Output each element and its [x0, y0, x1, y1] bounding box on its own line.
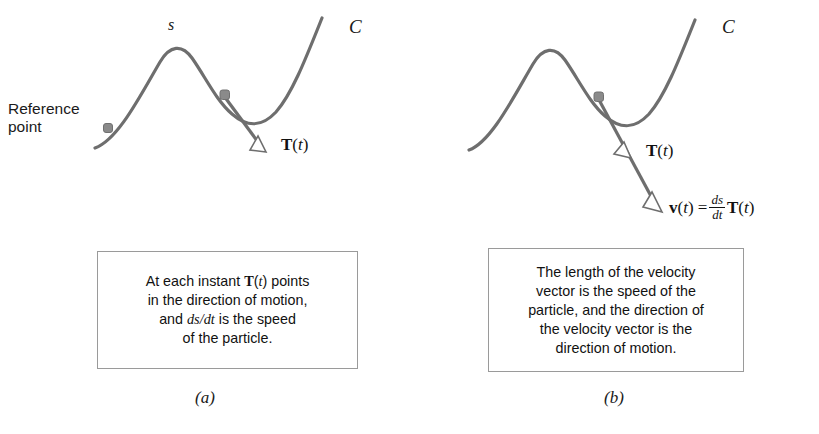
callout-a-l3p1: and	[159, 311, 187, 327]
velocity-vector-label-b: v(t) =dsdtT(t)	[669, 193, 754, 222]
callout-a-l3-math: ds/dt	[187, 311, 215, 327]
curve-label-c-b: C	[722, 16, 735, 38]
callout-b-l3: particle, and the direction of	[528, 302, 704, 318]
reference-point-dot	[104, 124, 113, 133]
panel-a: C s Reference point T(t) At each instant…	[0, 0, 410, 434]
callout-a-l3p2: is the speed	[215, 311, 296, 327]
fraction-numerator: ds	[709, 193, 725, 207]
callout-a-l2: in the direction of motion,	[148, 292, 308, 308]
curve-label-c-a: C	[349, 16, 362, 38]
panel-caption-a: (a)	[0, 388, 410, 408]
panel-b-graphic	[409, 0, 819, 240]
curve-c-a	[95, 18, 322, 148]
callout-text-b: The length of the velocity vector is the…	[528, 263, 704, 358]
tangent-paren-close-b: )	[668, 141, 674, 160]
figure-root: C s Reference point T(t) At each instant…	[0, 0, 819, 434]
ds-dt-fraction: dsdt	[709, 193, 725, 222]
tangent-vector-symbol-b: T	[646, 141, 657, 160]
tangency-point-dot-a	[220, 90, 230, 100]
velocity-tangent-symbol: T	[727, 198, 738, 217]
reference-point-label: Reference point	[8, 100, 80, 136]
reference-point-label-line1: Reference	[8, 100, 80, 118]
velocity-paren-close: )	[688, 198, 694, 217]
callout-b-l2: vector is the speed of the	[536, 283, 696, 299]
callout-box-a: At each instant T(t) points in the direc…	[97, 251, 358, 369]
callout-a-l1p2: points	[267, 273, 309, 289]
callout-b-l1: The length of the velocity	[537, 264, 696, 280]
tangency-point-dot-b	[594, 92, 604, 102]
callout-b-l4: the velocity vector is the	[540, 321, 693, 337]
callout-box-b: The length of the velocity vector is the…	[488, 248, 744, 372]
tangent-arrowhead-b	[614, 142, 631, 158]
tangent-vector-label-a: T(t)	[281, 135, 308, 155]
callout-a-l1-bold: T	[244, 273, 254, 289]
callout-a-l1p1: At each instant	[146, 273, 245, 289]
tangent-segment-a	[224, 96, 258, 142]
callout-b-l5: direction of motion.	[556, 340, 677, 356]
fraction-denominator: dt	[709, 207, 725, 222]
panel-caption-b: (b)	[409, 388, 819, 408]
velocity-arrowhead-b	[643, 192, 662, 212]
panel-b: C T(t) v(t) =dsdtT(t) The length of the …	[409, 0, 819, 434]
tangent-paren-close-a: )	[303, 135, 309, 154]
velocity-equals: =	[698, 198, 708, 217]
tangent-vector-symbol-a: T	[281, 135, 292, 154]
reference-point-label-line2: point	[8, 118, 80, 136]
tangent-arrowhead-a	[250, 136, 266, 152]
callout-text-a: At each instant T(t) points in the direc…	[146, 272, 310, 348]
velocity-vector-symbol: v	[669, 198, 678, 217]
velocity-tangent-paren-close: )	[749, 198, 755, 217]
callout-a-l4: of the particle.	[183, 330, 273, 346]
arclength-label-s: s	[168, 16, 174, 34]
tangent-vector-label-b: T(t)	[646, 141, 673, 161]
curve-c-b	[469, 20, 695, 150]
